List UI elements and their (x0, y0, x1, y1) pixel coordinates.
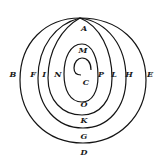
label-b: B (10, 70, 17, 78)
label-e: E (147, 70, 153, 78)
label-h: H (125, 70, 133, 78)
label-f: F (30, 70, 36, 78)
spiral-diagram (0, 0, 159, 158)
label-c: C (83, 78, 89, 86)
label-i: I (42, 70, 46, 78)
label-g: G (81, 132, 88, 140)
label-o: O (81, 100, 88, 108)
label-a: A (81, 24, 87, 32)
label-l: L (111, 70, 117, 78)
label-k: K (81, 116, 88, 124)
label-m: M (79, 46, 88, 54)
inner-spiral-c (74, 58, 91, 75)
label-d: D (81, 148, 88, 156)
label-p: P (98, 70, 104, 78)
label-n: N (54, 70, 61, 78)
